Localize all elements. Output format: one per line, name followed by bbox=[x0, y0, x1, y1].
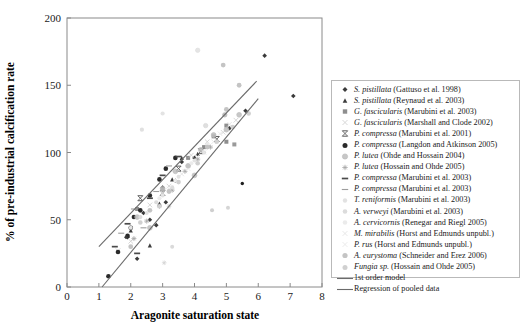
data-point bbox=[234, 118, 239, 123]
legend-marker-dash-light-icon bbox=[336, 184, 354, 195]
x-tick-label: 1 bbox=[96, 290, 102, 302]
legend-marker-glyph bbox=[343, 220, 348, 225]
legend-item-label: A. cervicornis (Renegar and Riegl 2005) bbox=[354, 218, 487, 228]
legend-marker-glyph bbox=[343, 265, 348, 270]
legend-marker-square-icon bbox=[336, 106, 354, 117]
legend-marker-bar-x-icon bbox=[336, 128, 354, 139]
legend-item-line[interactable]: Regression of pooled data bbox=[332, 284, 519, 295]
legend-item[interactable]: A. verweyi (Marubini et al. 2003) bbox=[332, 206, 519, 217]
legend-marker-glyph bbox=[343, 209, 348, 214]
data-point bbox=[291, 94, 296, 99]
legend-marker-cross-faint-icon bbox=[336, 228, 354, 239]
legend-marker-glyph bbox=[342, 253, 347, 258]
figure-container: 012345678 050100150200 Aragonite saturat… bbox=[0, 0, 522, 328]
data-point bbox=[224, 140, 228, 144]
legend-item[interactable]: S. pistillata (Gattuso et al. 1998) bbox=[332, 84, 519, 95]
legend-item-label: A. verweyi (Marubini et al. 2003) bbox=[354, 207, 463, 217]
legend-item[interactable]: P. compressa (Marubini et al. 2003) bbox=[332, 184, 519, 195]
legend-item-line[interactable]: 1st order model bbox=[332, 273, 519, 284]
legend-item[interactable]: P. compressa (Langdon and Atkinson 2005) bbox=[332, 139, 519, 150]
legend-item[interactable]: T. reniformis (Marubini et al. 2003) bbox=[332, 195, 519, 206]
data-point bbox=[211, 133, 216, 138]
legend-item[interactable]: P. rus (Horst and Edmunds unpubl.) bbox=[332, 239, 519, 250]
data-point bbox=[138, 220, 143, 225]
data-point bbox=[241, 182, 244, 185]
data-point bbox=[195, 161, 200, 166]
legend-item-label: G. fascicularis (Marubini et al. 2003) bbox=[354, 107, 477, 117]
regression-line bbox=[102, 99, 258, 287]
data-point bbox=[226, 206, 230, 210]
legend-item-label: Fungia sp. (Hossain and Ohde 2005) bbox=[354, 262, 475, 272]
legend-item[interactable]: A. cervicornis (Renegar and Riegl 2005) bbox=[332, 217, 519, 228]
legend-marker-glyph bbox=[343, 98, 348, 103]
data-point bbox=[186, 164, 191, 169]
x-tick-label: 2 bbox=[128, 290, 134, 302]
data-point bbox=[205, 145, 210, 150]
legend-item-label: T. reniformis (Marubini et al. 2003) bbox=[354, 195, 470, 205]
plot-frame bbox=[67, 18, 322, 287]
x-tick-label: 5 bbox=[224, 290, 230, 302]
legend-marker-glyph bbox=[343, 87, 348, 92]
legend-item-label: S. pistillata (Gattuso et al. 1998) bbox=[354, 85, 461, 95]
legend-marker-glyph bbox=[343, 143, 348, 148]
legend-marker-cross-faint2-icon bbox=[336, 239, 354, 250]
legend-marker-dot-faint-icon bbox=[336, 195, 354, 206]
legend-item[interactable]: P. lutea (Hossain and Ohde 2005) bbox=[332, 162, 519, 173]
data-point bbox=[128, 244, 133, 249]
data-point bbox=[157, 196, 161, 200]
legend-item-label: P. compressa (Marubini et al. 2003) bbox=[354, 173, 471, 183]
legend-item[interactable]: P. lutea (Ohde and Hossain 2004) bbox=[332, 151, 519, 162]
data-point bbox=[135, 256, 140, 261]
data-point bbox=[164, 166, 169, 171]
legend-item[interactable]: G. fascicularis (Marubini et al. 2003) bbox=[332, 106, 519, 117]
legend-marker-dot-faint3-icon bbox=[336, 217, 354, 228]
x-tick-label: 0 bbox=[64, 290, 70, 302]
legend-item[interactable]: P. compressa (Marubini et al. 2003) bbox=[332, 173, 519, 184]
data-point bbox=[140, 128, 144, 132]
legend-line-swatch-icon bbox=[336, 273, 354, 284]
legend-marker-circle-gray-icon bbox=[336, 250, 354, 261]
data-point bbox=[162, 260, 167, 265]
data-point bbox=[180, 172, 184, 176]
legend-item[interactable]: S. pistillata (Reynaud et al. 2003) bbox=[332, 95, 519, 106]
series-group bbox=[131, 145, 213, 241]
legend-item[interactable]: M. mirabilis (Horst and Edmunds unpubl.) bbox=[332, 228, 519, 239]
legend-marker-dot-faint2-icon bbox=[336, 206, 354, 217]
data-point bbox=[262, 53, 267, 58]
series-group bbox=[116, 118, 239, 253]
legend-marker-glyph bbox=[343, 242, 348, 247]
legend-line-label: Regression of pooled data bbox=[354, 284, 439, 294]
y-tick-label: 50 bbox=[50, 214, 62, 226]
legend-item[interactable]: G. fascicularis (Marshall and Clode 2002… bbox=[332, 117, 519, 128]
x-tick-label: 8 bbox=[319, 290, 325, 302]
data-point bbox=[167, 189, 172, 194]
data-point bbox=[161, 111, 165, 115]
legend-line-label: 1st order model bbox=[354, 273, 405, 283]
legend-item[interactable]: A. eurystoma (Schneider and Erez 2006) bbox=[332, 250, 519, 261]
legend-marker-glyph bbox=[342, 131, 347, 136]
data-point bbox=[173, 169, 178, 174]
legend-marker-circle-icon bbox=[336, 140, 354, 151]
legend-item-label: G. fascicularis (Marshall and Clode 2002… bbox=[354, 118, 493, 128]
legend-marker-glyph bbox=[343, 120, 348, 125]
data-point bbox=[148, 203, 153, 208]
y-tick-label: 200 bbox=[45, 12, 62, 24]
x-axis-title: Aragonite saturation state bbox=[131, 309, 259, 322]
y-tick-label: 150 bbox=[45, 79, 62, 91]
data-point bbox=[215, 139, 220, 144]
legend-item-label: P. rus (Horst and Edmunds unpubl.) bbox=[354, 240, 472, 250]
legend-marker-cross-x-icon bbox=[336, 117, 354, 128]
legend-marker-dash-bold-icon bbox=[336, 173, 354, 184]
x-tick-label: 4 bbox=[192, 290, 198, 302]
legend-item[interactable]: P. compressa (Marubini et al. 2001) bbox=[332, 128, 519, 139]
data-point bbox=[232, 142, 236, 146]
legend-marker-diamond-icon bbox=[336, 84, 354, 95]
legend-marker-triangle-icon bbox=[336, 95, 354, 106]
data-point bbox=[170, 245, 174, 249]
legend-marker-glyph bbox=[342, 165, 347, 170]
data-point bbox=[131, 236, 136, 241]
y-tick-label: 0 bbox=[56, 281, 62, 293]
legend-item-label: P. compressa (Marubini et al. 2001) bbox=[354, 129, 471, 139]
legend-item[interactable]: Fungia sp. (Hossain and Ohde 2005) bbox=[332, 262, 519, 273]
data-point bbox=[157, 204, 162, 209]
